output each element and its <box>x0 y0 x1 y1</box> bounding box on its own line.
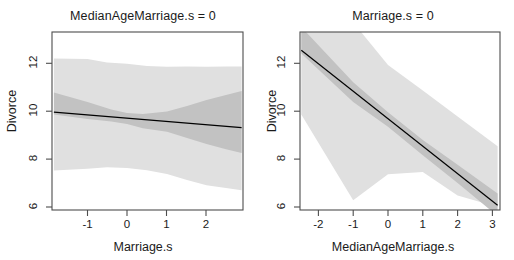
y-ticks-right <box>294 63 300 207</box>
x-tick-label-left-m1: -1 <box>76 218 100 230</box>
y-axis-label-right: Divorce <box>265 81 279 141</box>
panel-median-age-fixed: MedianAgeMarriage.s = 0 <box>0 0 258 260</box>
x-ticks-left <box>88 210 207 216</box>
counterfactual-plot-figure: MedianAgeMarriage.s = 0 <box>0 0 514 260</box>
y-tick-label-right-12: 12 <box>275 51 287 73</box>
y-tick-label-left-10: 10 <box>27 99 39 121</box>
x-tick-label-right-m2: -2 <box>306 218 330 230</box>
x-tick-label-right-3: 3 <box>480 218 504 230</box>
x-tick-label-right-0: 0 <box>376 218 400 230</box>
y-tick-label-left-6: 6 <box>27 195 39 217</box>
y-axis-label-left: Divorce <box>5 81 19 141</box>
x-axis-label-left: Marriage.s <box>0 240 272 254</box>
y-tick-label-right-6: 6 <box>275 195 287 217</box>
y-tick-label-left-8: 8 <box>27 147 39 169</box>
x-tick-label-left-2: 2 <box>194 218 218 230</box>
x-axis-label-right: MedianAgeMarriage.s <box>256 240 514 254</box>
y-ticks-left <box>46 63 52 207</box>
panel-marriage-fixed: Marriage.s = 0 <box>256 0 514 260</box>
y-tick-label-right-8: 8 <box>275 147 287 169</box>
x-ticks-right <box>318 210 492 216</box>
x-tick-label-left-0: 0 <box>115 218 139 230</box>
x-tick-label-right-1: 1 <box>411 218 435 230</box>
x-tick-label-right-2: 2 <box>446 218 470 230</box>
x-tick-label-left-1: 1 <box>155 218 179 230</box>
x-tick-label-right-m1: -1 <box>341 218 365 230</box>
y-tick-label-left-12: 12 <box>27 51 39 73</box>
